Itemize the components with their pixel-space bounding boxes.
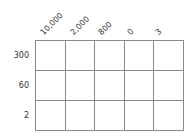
grid-cell xyxy=(66,101,96,131)
grid-cell xyxy=(66,41,96,71)
matrix-grid xyxy=(35,40,184,131)
grid-cell xyxy=(36,71,66,101)
column-label: 2,000 xyxy=(69,14,92,37)
grid-cell xyxy=(154,71,184,101)
grid-cell xyxy=(66,71,96,101)
grid-cell xyxy=(125,101,155,131)
row-label: 300 xyxy=(14,51,29,60)
grid-cell xyxy=(125,41,155,71)
column-label: 800 xyxy=(97,20,114,37)
grid-cell xyxy=(154,41,184,71)
column-label: 0 xyxy=(126,27,136,37)
grid-cell xyxy=(36,41,66,71)
grid-cell xyxy=(154,101,184,131)
row-label: 60 xyxy=(19,81,29,90)
column-label: 10,000 xyxy=(39,11,65,37)
grid-cell xyxy=(95,41,125,71)
grid-cell xyxy=(95,101,125,131)
column-label: 3 xyxy=(154,27,164,37)
row-label: 2 xyxy=(24,111,29,120)
grid-cell xyxy=(95,71,125,101)
grid-cell xyxy=(36,101,66,131)
grid-cell xyxy=(125,71,155,101)
